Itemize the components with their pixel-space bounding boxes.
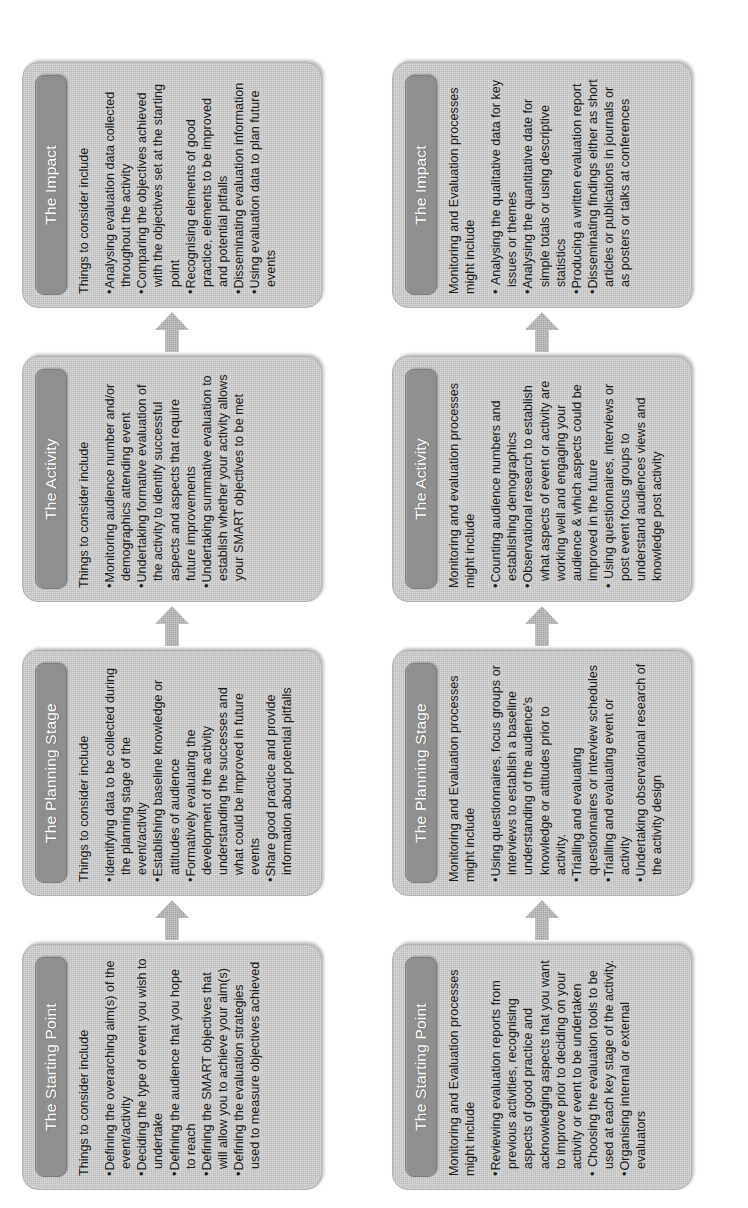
flow-arrow-activity-to-impact: [22, 308, 322, 356]
bullet-item: Defining the audience that you hope to r…: [167, 957, 199, 1176]
bullet-item: Disseminating evaluation information: [231, 75, 247, 294]
bullet-item: Using evaluation data to plan future eve…: [247, 75, 279, 294]
stage-header-planning-stage: The Planning Stage: [35, 663, 67, 883]
stage-intro-text: Monitoring and evaluation processes migh…: [446, 369, 478, 588]
flowchart-row-things-to-consider: The Starting Point Things to consider in…: [22, 0, 352, 1208]
arrow-right-icon: [155, 900, 189, 940]
flow-arrow-end-spacer: [22, 14, 322, 62]
stage-intro-text: Things to consider include: [76, 957, 92, 1176]
bullet-item: Reviewing evaluation reports from previo…: [488, 957, 585, 1176]
stage-box-starting-point-processes[interactable]: The Starting Point Monitoring and Evalua…: [392, 944, 692, 1190]
stage-header-impact: The Impact: [405, 75, 437, 295]
stage-box-planning-stage-considerations[interactable]: The Planning Stage Things to consider in…: [22, 650, 322, 896]
bullet-item: Identifying data to be collected during …: [102, 663, 150, 882]
stage-intro-text: Monitoring and Evaluation processes migh…: [446, 957, 478, 1176]
stage-header-starting-point: The Starting Point: [35, 957, 67, 1177]
stage-bullet-list: Counting audience numbers and establishi…: [488, 367, 665, 591]
bullet-item: Choosing the evaluation tools to be used…: [585, 957, 617, 1176]
bullet-item: Trialling and evaluating event or activi…: [601, 663, 633, 882]
stage-cell-planning-stage-considerations: The Planning Stage Things to consider in…: [22, 602, 322, 896]
arrow-right-icon: [155, 606, 189, 646]
stage-bullet-list: Defining the overarching aim(s) of the e…: [102, 955, 263, 1179]
arrow-right-icon: [525, 900, 559, 940]
bullet-item: Defining the SMART objectives that will …: [199, 957, 231, 1176]
stage-bullet-list: Analysing evaluation data collected thro…: [102, 73, 279, 297]
stage-intro-text: Things to consider include: [76, 663, 92, 882]
bullet-item: Defining the overarching aim(s) of the e…: [102, 957, 134, 1176]
bullet-item: Disseminating findings either as short a…: [585, 75, 633, 294]
flowchart-diagram: The Starting Point Things to consider in…: [0, 0, 748, 1208]
rotated-diagram-canvas: The Starting Point Things to consider in…: [0, 0, 748, 1208]
flow-arrow-end-spacer: [392, 14, 692, 62]
flowchart-row-monitoring-processes: The Starting Point Monitoring and Evalua…: [392, 0, 722, 1208]
flow-arrow-planning-to-activity: [22, 602, 322, 650]
flow-arrow-activity-to-impact: [392, 308, 692, 356]
bullet-item: Observational research to establish what…: [520, 369, 601, 588]
bullet-item: Share good practice and provide informat…: [263, 663, 295, 882]
bullet-item: Analysing the quantitative date for simp…: [520, 75, 568, 294]
stage-header-activity: The Activity: [35, 369, 67, 589]
bullet-item: Undertaking summative evaluation to esta…: [199, 369, 247, 588]
bullet-item: Deciding the type of event you wish to u…: [134, 957, 166, 1176]
bullet-item: Defining the evaluation strategies used …: [231, 957, 263, 1176]
flow-arrow-starting-point-to-planning: [22, 896, 322, 944]
stage-intro-text: Things to consider include: [76, 369, 92, 588]
bullet-item: Comparing the objectives achieved with t…: [134, 75, 182, 294]
stage-cell-starting-point-processes: The Starting Point Monitoring and Evalua…: [392, 896, 692, 1190]
arrow-right-icon: [525, 312, 559, 352]
stage-bullet-list: Monitoring audience number and/or demogr…: [102, 367, 247, 591]
stage-box-starting-point-considerations[interactable]: The Starting Point Things to consider in…: [22, 944, 322, 1190]
stage-header-activity: The Activity: [405, 369, 437, 589]
bullet-item: Formatively evaluating the development o…: [183, 663, 264, 882]
bullet-item: Establishing baseline knowledge or attit…: [150, 663, 182, 882]
stage-header-starting-point: The Starting Point: [405, 957, 437, 1177]
bullet-item: Undertaking observational research of th…: [633, 663, 665, 882]
bullet-item: Analysing evaluation data collected thro…: [102, 75, 134, 294]
flow-arrow-planning-to-activity: [392, 602, 692, 650]
stage-intro-text: Monitoring and Evaluation processes migh…: [446, 663, 478, 882]
stage-cell-activity-considerations: The Activity Things to consider include …: [22, 308, 322, 602]
bullet-item: Counting audience numbers and establishi…: [488, 369, 520, 588]
bullet-item: Analysing the qualitative data for key i…: [488, 75, 520, 294]
bullet-item: Undertaking formative evaluation of the …: [134, 369, 198, 588]
bullet-item: Using questionnaires, focus groups or in…: [488, 663, 569, 882]
stage-header-planning-stage: The Planning Stage: [405, 663, 437, 883]
stage-intro-text: Monitoring and Evaluation processes migh…: [446, 75, 478, 294]
stage-box-impact-considerations[interactable]: The Impact Things to consider include An…: [22, 62, 322, 308]
stage-box-impact-processes[interactable]: The Impact Monitoring and Evaluation pro…: [392, 62, 692, 308]
stage-cell-impact-processes: The Impact Monitoring and Evaluation pro…: [392, 14, 692, 308]
arrow-right-icon: [155, 312, 189, 352]
bullet-item: Using questionnaires, interviews or post…: [601, 369, 665, 588]
stage-cell-starting-point-considerations: The Starting Point Things to consider in…: [22, 896, 322, 1190]
stage-bullet-list: Identifying data to be collected during …: [102, 661, 295, 885]
stage-box-activity-considerations[interactable]: The Activity Things to consider include …: [22, 356, 322, 602]
stage-bullet-list: Using questionnaires, focus groups or in…: [488, 661, 665, 885]
bullet-item: Producing a written evaluation report: [569, 75, 585, 294]
stage-cell-impact-considerations: The Impact Things to consider include An…: [22, 14, 322, 308]
stage-bullet-list: Analysing the qualitative data for key i…: [488, 73, 633, 297]
stage-intro-text: Things to consider include: [76, 75, 92, 294]
stage-header-impact: The Impact: [35, 75, 67, 295]
bullet-item: Trialling and evaluating questionnaires …: [569, 663, 601, 882]
stage-cell-planning-stage-processes: The Planning Stage Monitoring and Evalua…: [392, 602, 692, 896]
arrow-right-icon: [525, 606, 559, 646]
stage-cell-activity-processes: The Activity Monitoring and evaluation p…: [392, 308, 692, 602]
flow-arrow-starting-point-to-planning: [392, 896, 692, 944]
bullet-item: Recognising elements of good practice, e…: [183, 75, 231, 294]
bullet-item: Monitoring audience number and/or demogr…: [102, 369, 134, 588]
stage-bullet-list: Reviewing evaluation reports from previo…: [488, 955, 649, 1179]
stage-box-activity-processes[interactable]: The Activity Monitoring and evaluation p…: [392, 356, 692, 602]
stage-box-planning-stage-processes[interactable]: The Planning Stage Monitoring and Evalua…: [392, 650, 692, 896]
bullet-item: Organising internal or external evaluato…: [617, 957, 649, 1176]
